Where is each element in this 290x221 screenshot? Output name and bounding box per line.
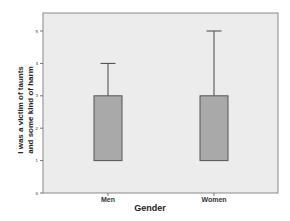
x-category-label: Women: [201, 196, 226, 203]
y-tick-label: 3: [35, 93, 38, 98]
box-plot-chart: 012345 MenWomen Gender I was a victim of…: [0, 0, 290, 221]
y-tick-label: 2: [35, 126, 38, 131]
y-axis-title-line-2: and some kind of harm: [26, 66, 35, 154]
x-axis-title: Gender: [134, 203, 166, 213]
y-tick-label: 4: [35, 61, 38, 66]
y-axis-title: I was a victim of taunts and some kind o…: [16, 66, 35, 154]
y-tick-label: 1: [35, 158, 38, 163]
iqr-box: [200, 96, 228, 161]
iqr-box: [94, 96, 122, 161]
y-axis-title-line-1: I was a victim of taunts: [16, 66, 25, 154]
plot-area: [43, 13, 278, 193]
x-category-label: Men: [101, 196, 115, 203]
y-tick-label: 0: [35, 191, 38, 196]
x-axis-category-labels: MenWomen: [101, 193, 227, 203]
y-axis-ticks: 012345: [35, 29, 43, 196]
y-tick-label: 5: [35, 29, 38, 34]
